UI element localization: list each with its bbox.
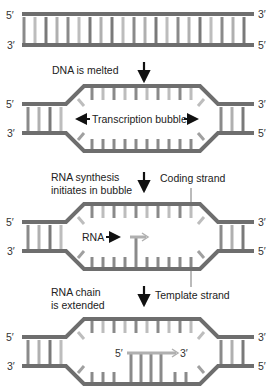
step-label: RNA synthesis (51, 171, 119, 183)
dna-bubble-rna-start (22, 204, 254, 269)
dna-bubble-rna-extended (22, 319, 254, 384)
end-label: 3′ (7, 39, 15, 51)
end-label: 3′ (258, 98, 266, 110)
end-label: 5′ (258, 39, 266, 51)
end-label: 3′ (7, 127, 15, 139)
end-label: 5′ (258, 360, 266, 372)
step-label: RNA chain (51, 286, 101, 298)
template-strand-label: Template strand (155, 289, 230, 301)
coding-strand-label: Coding strand (160, 172, 226, 184)
step-label: initiates in bubble (51, 184, 132, 196)
end-label: 3′ (7, 360, 15, 372)
transcription-diagram: 5′ 3′ 3′ 5′ DNA is melted (0, 0, 276, 388)
end-label: 5′ (6, 9, 14, 21)
end-label: 5′ (258, 127, 266, 139)
end-label: 5′ (6, 98, 14, 110)
end-label: 5′ (6, 331, 14, 343)
bubble-label: Transcription bubble (92, 113, 187, 125)
step-label: is extended (51, 299, 105, 311)
end-label: 3′ (258, 8, 266, 20)
step-label: DNA is melted (52, 64, 119, 76)
rna-label: RNA (82, 231, 104, 243)
rna-3prime-label: 3′ (180, 347, 188, 359)
end-label: 3′ (7, 245, 15, 257)
end-label: 5′ (6, 216, 14, 228)
dna-duplex-intact (22, 14, 254, 45)
rna-5prime-label: 5′ (115, 347, 123, 359)
end-label: 3′ (258, 216, 266, 228)
end-label: 3′ (258, 331, 266, 343)
end-label: 5′ (258, 245, 266, 257)
